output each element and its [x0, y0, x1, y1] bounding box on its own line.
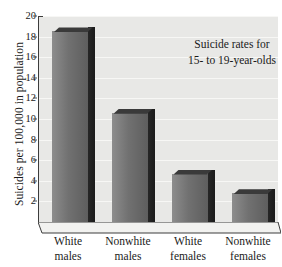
bar: [172, 169, 215, 222]
bar-front-face: [52, 31, 88, 222]
y-axis-tick-labels: 2468101214161820: [16, 10, 36, 232]
x-axis-category-labels: WhitemalesNonwhitemalesWhitefemalesNonwh…: [38, 234, 278, 267]
chart-floor: [38, 222, 281, 234]
floor-polygon: [38, 222, 281, 234]
gridline: [39, 16, 278, 17]
y-axis-tick-mark: [33, 139, 37, 140]
bar-top-face: [174, 170, 213, 175]
y-axis-tick-mark: [33, 36, 37, 37]
y-axis-tick-mark: [33, 57, 37, 58]
bar-top-face: [114, 109, 153, 114]
x-axis-category-label-line: White: [38, 234, 98, 249]
bar: [232, 188, 275, 222]
chart-title-line-1: Suicide rates for: [157, 36, 282, 52]
x-axis-category-label-line: Nonwhite: [98, 234, 158, 249]
y-axis-tick-mark: [33, 180, 37, 181]
x-axis-category-label-line: White: [158, 234, 218, 249]
chart-title: Suicide rates for 15- to 19-year-olds: [157, 36, 282, 69]
bar-side-face: [148, 109, 155, 222]
x-axis-category-label: Whitemales: [38, 234, 98, 264]
y-axis-tick-mark: [33, 16, 37, 17]
bar-chart: Suicides per 100,000 in population 24681…: [0, 0, 282, 267]
bar-top-face: [234, 189, 273, 194]
y-axis-tick-mark: [33, 119, 37, 120]
bar: [52, 26, 95, 222]
x-axis-category-label-line: Nonwhite: [218, 234, 278, 249]
x-axis-category-label-line: females: [218, 249, 278, 264]
x-axis-category-label: Whitefemales: [158, 234, 218, 264]
y-axis-top-tick: [38, 16, 43, 17]
y-axis-tick-mark: [33, 77, 37, 78]
bar-side-face: [268, 189, 275, 222]
x-axis-category-label: Nonwhitefemales: [218, 234, 278, 264]
bar-top-face: [54, 27, 93, 32]
plot-area: Suicide rates for 15- to 19-year-olds: [38, 16, 278, 222]
bar-side-face: [208, 170, 215, 222]
x-axis-category-label-line: males: [38, 249, 98, 264]
y-axis-tick-mark: [33, 98, 37, 99]
bar: [112, 108, 155, 222]
bar-side-face: [88, 27, 95, 222]
y-axis-tick-mark: [33, 201, 37, 202]
chart-title-line-2: 15- to 19-year-olds: [157, 52, 282, 68]
bar-front-face: [112, 113, 148, 222]
bar-front-face: [232, 193, 268, 222]
x-axis-category-label: Nonwhitemales: [98, 234, 158, 264]
x-axis-category-label-line: males: [98, 249, 158, 264]
x-axis-category-label-line: females: [158, 249, 218, 264]
y-axis-tick-mark: [33, 160, 37, 161]
bar-front-face: [172, 174, 208, 222]
